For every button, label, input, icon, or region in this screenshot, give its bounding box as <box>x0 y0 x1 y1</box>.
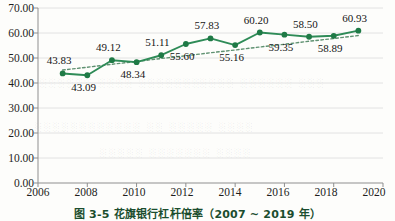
data-point-marker <box>109 57 115 63</box>
data-point-label: 58.50 <box>293 18 318 30</box>
data-point-label: 43.83 <box>47 54 72 66</box>
data-point-label: 58.89 <box>318 42 343 54</box>
data-point-label: 55.60 <box>170 50 195 62</box>
data-point-marker <box>331 33 337 39</box>
data-point-marker <box>232 42 238 48</box>
data-point-label: 60.93 <box>342 12 367 24</box>
figure-caption: 图 3-5 花旗银行杠杆倍率（2007 ~ 2019 年） <box>0 205 395 221</box>
data-point-label: 48.34 <box>121 68 146 80</box>
axis-ticks <box>34 8 383 187</box>
data-point-marker <box>183 41 189 47</box>
data-point-marker <box>208 36 214 42</box>
data-point-marker <box>355 28 361 34</box>
line-chart: 70.00 60.00 50.00 40.00 30.00 20.00 10.0… <box>0 0 395 200</box>
data-point-label: 60.20 <box>244 14 269 26</box>
data-point-marker <box>60 71 66 77</box>
data-point-marker <box>306 34 312 40</box>
data-point-marker <box>134 59 140 65</box>
data-point-label: 55.16 <box>219 51 244 63</box>
data-point-label: 43.09 <box>71 81 96 93</box>
data-point-label: 57.83 <box>195 19 220 31</box>
data-point-label: 59.35 <box>268 41 293 53</box>
data-point-marker <box>84 72 90 78</box>
figure-page: ░░░░░░ ░░░░ ░░░░░░░ ░░░░ ░░░░░░ ░░░ ░░░░… <box>0 0 395 221</box>
data-point-marker <box>282 32 288 38</box>
data-point-marker <box>257 30 263 36</box>
data-point-label: 49.12 <box>96 41 121 53</box>
data-point-marker <box>158 52 164 58</box>
data-point-label: 51.11 <box>145 36 169 48</box>
